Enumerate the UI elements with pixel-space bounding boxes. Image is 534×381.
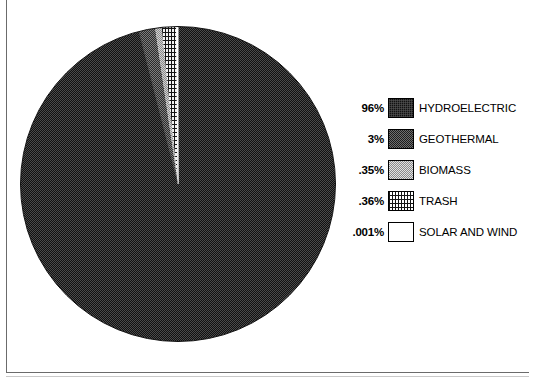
legend-label-solar-and-wind: SOLAR AND WIND (419, 226, 517, 238)
legend-percent-trash: .36% (344, 195, 384, 207)
chart-legend: 96% HYDROELECTRIC 3% GEOTHERMAL .35% BIO… (344, 92, 534, 247)
legend-label-geothermal: GEOTHERMAL (419, 133, 499, 145)
legend-percent-hydroelectric: 96% (344, 102, 384, 114)
pie-chart-area (0, 0, 360, 381)
legend-row-biomass[interactable]: .35% BIOMASS (344, 154, 534, 185)
legend-row-hydroelectric[interactable]: 96% HYDROELECTRIC (344, 92, 534, 123)
legend-percent-geothermal: 3% (344, 133, 384, 145)
legend-label-hydroelectric: HYDROELECTRIC (419, 102, 516, 114)
legend-row-trash[interactable]: .36% TRASH (344, 185, 534, 216)
solar-and-wind-swatch-icon (388, 222, 414, 242)
legend-percent-biomass: .35% (344, 164, 384, 176)
legend-percent-solar-and-wind: .001% (344, 226, 384, 238)
trash-swatch-icon (388, 191, 414, 211)
geothermal-swatch-icon (388, 129, 414, 149)
biomass-swatch-icon (388, 160, 414, 180)
legend-label-trash: TRASH (419, 195, 457, 207)
hydro-swatch-icon (388, 98, 414, 118)
legend-label-biomass: BIOMASS (419, 164, 471, 176)
legend-row-solar-and-wind[interactable]: .001% SOLAR AND WIND (344, 216, 534, 247)
pie-chart-svg (0, 0, 360, 381)
legend-row-geothermal[interactable]: 3% GEOTHERMAL (344, 123, 534, 154)
